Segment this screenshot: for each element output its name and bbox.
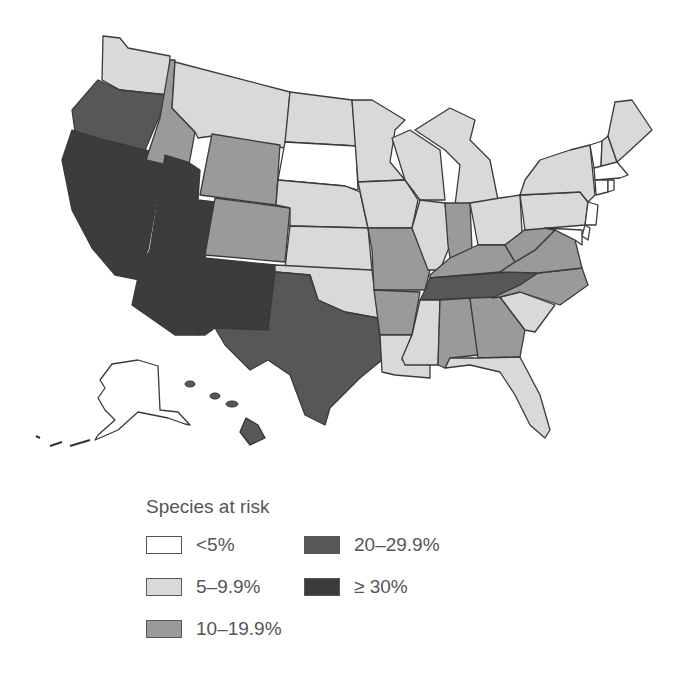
legend-swatch bbox=[304, 536, 340, 554]
state-delaware bbox=[582, 225, 590, 240]
legend-item-20-29: 20–29.9% bbox=[304, 534, 440, 556]
legend-label: 5–9.9% bbox=[196, 576, 260, 598]
legend-item-gte30: ≥ 30% bbox=[304, 576, 408, 598]
legend-item-5-9: 5–9.9% bbox=[146, 576, 260, 598]
legend-label: ≥ 30% bbox=[354, 576, 408, 598]
legend: Species at risk <5% 5–9.9% 10–19.9% 20–2… bbox=[146, 496, 486, 656]
state-alaska bbox=[95, 360, 190, 440]
state-rhode-island bbox=[608, 180, 614, 192]
state-colorado bbox=[205, 198, 290, 262]
legend-label: <5% bbox=[196, 534, 235, 556]
state-kansas bbox=[285, 226, 372, 270]
legend-swatch bbox=[146, 620, 182, 638]
state-pennsylvania bbox=[520, 192, 588, 230]
state-arizona bbox=[132, 250, 205, 335]
legend-swatch bbox=[304, 578, 340, 596]
state-maine bbox=[608, 100, 652, 162]
us-choropleth-map bbox=[0, 0, 691, 500]
legend-label: 20–29.9% bbox=[354, 534, 440, 556]
state-connecticut bbox=[595, 180, 608, 195]
state-hawaii-island-1 bbox=[185, 381, 195, 387]
state-iowa bbox=[358, 180, 418, 228]
state-florida bbox=[445, 357, 550, 438]
legend-item-lt5: <5% bbox=[146, 534, 235, 556]
alaska-aleutians bbox=[36, 436, 90, 446]
state-new-mexico bbox=[198, 258, 275, 335]
legend-swatch bbox=[146, 578, 182, 596]
state-wyoming bbox=[200, 134, 280, 205]
state-new-jersey bbox=[585, 202, 598, 225]
legend-title: Species at risk bbox=[146, 496, 270, 518]
state-hawaii-island-3 bbox=[226, 401, 238, 407]
legend-swatch bbox=[146, 536, 182, 554]
legend-label: 10–19.9% bbox=[196, 618, 282, 640]
state-hawaii-island-2 bbox=[210, 393, 220, 399]
legend-item-10-19: 10–19.9% bbox=[146, 618, 282, 640]
state-new-york bbox=[520, 145, 595, 202]
state-north-dakota bbox=[285, 92, 356, 146]
state-hawaii-big-island bbox=[240, 418, 265, 445]
